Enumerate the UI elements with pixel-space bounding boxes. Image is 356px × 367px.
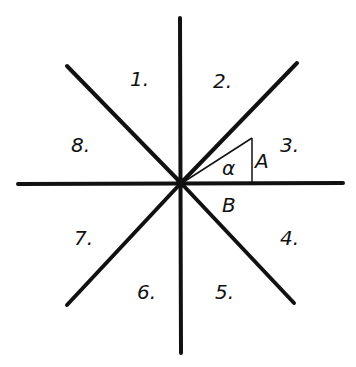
angle-alpha-label: α (222, 156, 235, 180)
adjacent-side-label-B: B (222, 193, 236, 217)
diagonal-lower-right (181, 183, 294, 303)
sector-label-8: 8. (71, 133, 90, 157)
diagonal-upper-left (67, 66, 181, 183)
compass-sector-diagram: 1. 2. 3. 4. 5. 6. 7. 8. α A B (0, 0, 356, 367)
sector-label-3: 3. (280, 133, 299, 157)
sector-label-7: 7. (74, 226, 93, 250)
center-point (176, 178, 186, 188)
sector-label-5: 5. (215, 280, 234, 304)
sector-label-2: 2. (213, 69, 232, 93)
sector-label-6: 6. (137, 280, 156, 304)
sector-label-1: 1. (130, 67, 149, 91)
diagonal-upper-right (181, 63, 297, 183)
opposite-side-label-A: A (253, 149, 269, 173)
sector-label-4: 4. (280, 226, 299, 250)
